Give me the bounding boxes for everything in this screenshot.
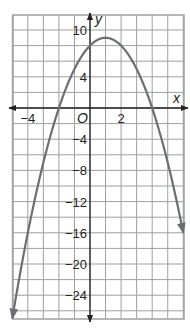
x-tick-label: −4: [20, 111, 35, 126]
y-tick-label: −12: [65, 195, 87, 210]
x-tick-label: 2: [117, 111, 124, 126]
y-tick-label: −16: [65, 226, 87, 241]
y-tick-label: −4: [72, 132, 87, 147]
grid: [12, 15, 184, 319]
y-tick-label: 10: [73, 23, 87, 38]
y-tick-label: −20: [65, 257, 87, 272]
y-tick-label: −24: [65, 288, 87, 303]
y-tick-label: −8: [72, 163, 87, 178]
parabola-graph: −42104−4−8−12−16−20−24 x y O: [0, 0, 190, 334]
origin-label: O: [77, 110, 88, 126]
x-axis-label: x: [172, 90, 181, 106]
y-tick-label: 4: [80, 70, 87, 85]
y-axis-label: y: [94, 11, 103, 27]
